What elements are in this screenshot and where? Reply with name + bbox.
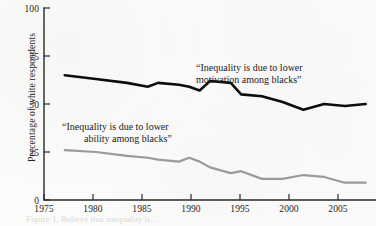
annotation-ability: “Inequality is due to lower ability amon… bbox=[62, 121, 172, 144]
y-tick-label: 75 bbox=[29, 52, 39, 62]
line-chart-plot: 100 75 50 25 0 1975 1980 1985 1990 1995 … bbox=[0, 0, 376, 226]
annotation-motivation-line1: “Inequality is due to lower bbox=[196, 62, 303, 73]
x-tick-label: 1985 bbox=[132, 204, 152, 214]
annotation-ability-line1: “Inequality is due to lower bbox=[62, 121, 169, 132]
x-tick-label: 1995 bbox=[230, 204, 250, 214]
figure-container: Percentage of white respondents 100 75 5… bbox=[0, 0, 376, 226]
x-tick-label: 1975 bbox=[34, 204, 54, 214]
x-tick-label: 2005 bbox=[328, 204, 348, 214]
y-tick-label: 100 bbox=[24, 4, 39, 14]
figure-caption: Figure 1. Believe that inequality is... bbox=[26, 214, 366, 224]
y-axis-ticks bbox=[44, 8, 50, 200]
x-tick-label: 1980 bbox=[83, 204, 103, 214]
x-axis-tick-labels: 1975 1980 1985 1990 1995 2000 2005 bbox=[34, 204, 348, 214]
x-axis-ticks bbox=[44, 194, 338, 200]
x-tick-label: 1990 bbox=[181, 204, 201, 214]
x-tick-label: 2000 bbox=[279, 204, 299, 214]
annotation-motivation: “Inequality is due to lower motivation a… bbox=[196, 62, 303, 85]
y-axis-tick-labels: 100 75 50 25 0 bbox=[24, 4, 39, 206]
annotation-motivation-line2: motivation among blacks” bbox=[196, 74, 302, 85]
annotation-ability-line2: ability among blacks” bbox=[84, 133, 172, 144]
series-line-ability bbox=[65, 150, 366, 183]
y-tick-label: 50 bbox=[29, 100, 39, 110]
y-tick-label: 25 bbox=[29, 148, 39, 158]
